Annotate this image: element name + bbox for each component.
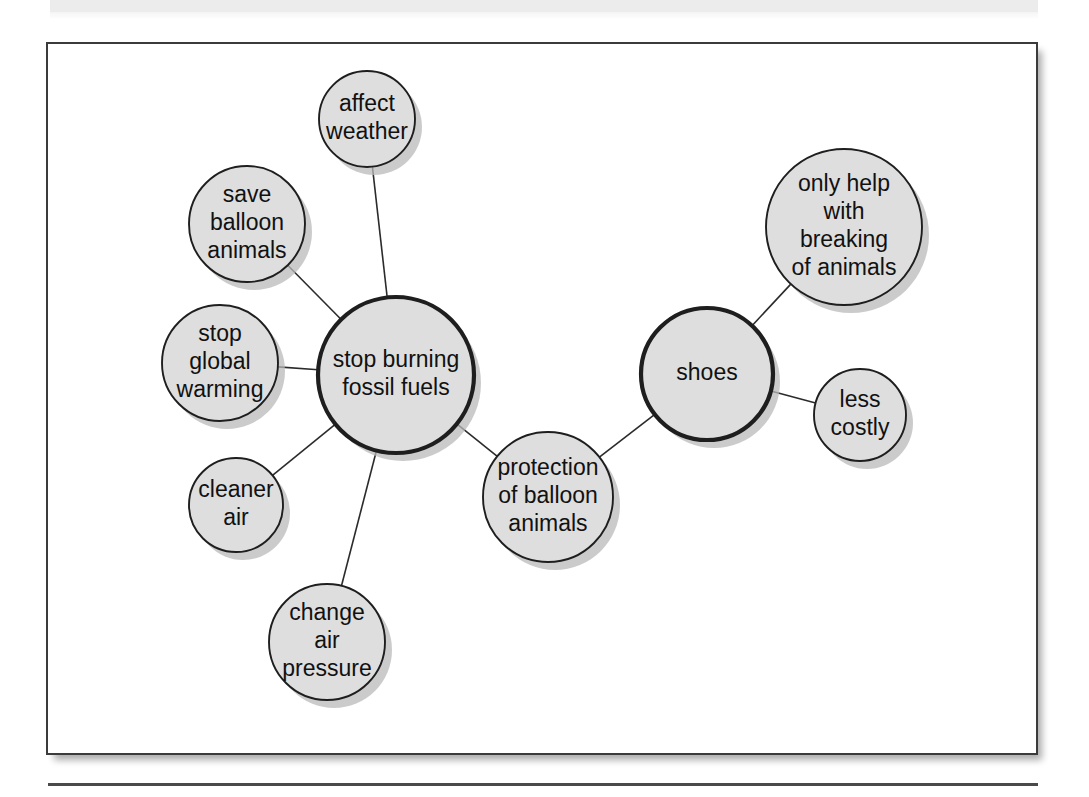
edge-fossil_fuels-to-save_balloon: [288, 265, 342, 319]
edge-fossil_fuels-to-affect_weather: [372, 167, 387, 298]
node-less_costly[interactable]: lesscostly: [814, 369, 913, 469]
node-shoes[interactable]: shoes: [641, 308, 780, 448]
node-only_help[interactable]: only helpwithbreakingof animals: [766, 149, 929, 313]
edge-fossil_fuels-to-cleaner_air: [273, 424, 336, 475]
page-bottom-rule: [48, 783, 1038, 786]
node-save_balloon[interactable]: saveballoonanimals: [189, 166, 312, 290]
node-label-shoes: shoes: [676, 359, 737, 385]
figure-page: affectweathersaveballoonanimalsstopgloba…: [0, 0, 1089, 797]
concept-map-canvas: affectweathersaveballoonanimalsstopgloba…: [48, 44, 1040, 757]
node-protection[interactable]: protectionof balloonanimals: [483, 432, 620, 570]
page-scan-top-band: [50, 0, 1038, 12]
concept-map-frame: affectweathersaveballoonanimalsstopgloba…: [46, 42, 1038, 755]
edge-fossil_fuels-to-change_pressure: [342, 451, 377, 586]
node-fossil_fuels[interactable]: stop burningfossil fuels: [318, 297, 481, 461]
edge-protection-to-shoes: [599, 414, 654, 457]
node-label-protection: protectionof balloonanimals: [497, 454, 598, 536]
node-affect_weather[interactable]: affectweather: [319, 71, 422, 175]
nodes-layer: affectweathersaveballoonanimalsstopgloba…: [162, 71, 929, 708]
edge-shoes-to-only_help: [752, 284, 791, 326]
node-change_pressure[interactable]: changeairpressure: [269, 584, 392, 708]
node-stop_global[interactable]: stopglobalwarming: [162, 305, 285, 429]
